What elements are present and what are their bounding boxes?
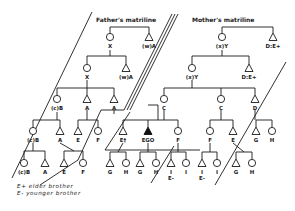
circle-icon xyxy=(182,159,189,166)
node-label: D xyxy=(253,105,258,111)
male-node: G xyxy=(252,127,260,143)
female-node: I xyxy=(213,159,220,174)
female-node: (x)Y xyxy=(216,33,228,48)
male-node: D:E+ xyxy=(242,64,257,80)
node-label: G xyxy=(234,169,239,175)
male-node: E† xyxy=(119,127,127,143)
triangle-icon xyxy=(106,159,114,167)
female-node: H xyxy=(268,127,275,142)
node-label: E xyxy=(76,137,80,143)
node-label: A xyxy=(85,105,90,111)
father-matriline-title: Father's matriline xyxy=(96,16,156,23)
circle-icon xyxy=(53,95,60,102)
triangle-icon xyxy=(232,159,240,167)
circle-icon xyxy=(218,33,225,40)
node-sublabel: E- xyxy=(199,175,205,181)
legend-younger-brother: E- younger brother xyxy=(17,190,81,197)
circle-icon xyxy=(94,127,101,134)
circle-icon xyxy=(79,159,86,166)
circle-icon xyxy=(213,159,220,166)
male-node: D xyxy=(251,95,259,111)
node-label: (c)B xyxy=(18,169,30,175)
triangle-icon xyxy=(119,127,127,135)
female-node: I xyxy=(182,159,189,174)
node-label: (w)A xyxy=(119,74,134,80)
male-node: G xyxy=(136,159,144,175)
kinship-diagram: Father's matriline Mother's matriline X(… xyxy=(0,0,295,211)
circle-icon xyxy=(206,127,213,134)
triangle-icon xyxy=(136,159,144,167)
node-label: A xyxy=(58,137,63,143)
circle-icon xyxy=(160,95,167,102)
node-label: D:E+ xyxy=(242,74,257,80)
female-node: (c)B xyxy=(27,127,39,142)
node-label: C xyxy=(219,105,223,111)
male-node: E xyxy=(229,127,237,143)
circle-icon xyxy=(106,33,113,40)
triangle-icon xyxy=(251,95,259,103)
triangle-icon xyxy=(83,95,91,103)
triangle-icon xyxy=(110,95,118,103)
circle-icon xyxy=(174,127,181,134)
node-label: C xyxy=(162,105,166,111)
ego-node: EGO xyxy=(142,127,155,143)
male-node: E xyxy=(60,159,68,175)
mother-matriline-title: Mother's matriline xyxy=(192,16,254,23)
female-node: C xyxy=(217,95,224,110)
node-label: E† xyxy=(120,137,127,143)
filled-triangle-icon xyxy=(144,127,152,135)
female-node: X xyxy=(83,64,90,79)
kinship-nodes: X(w)AX(w)A(c)BAA(c)BAEF(c)BAEF(x)YD:E+(x… xyxy=(18,33,281,181)
male-node: E xyxy=(74,127,82,143)
circle-icon xyxy=(29,127,36,134)
circle-icon xyxy=(20,159,27,166)
node-label: H xyxy=(270,137,275,143)
male-node: (w)A xyxy=(119,64,134,80)
node-sublabel: E- xyxy=(168,175,174,181)
male-node: A xyxy=(56,127,64,143)
node-label: H xyxy=(124,169,129,175)
female-node: C xyxy=(160,95,167,110)
male-node: G xyxy=(106,159,114,175)
circle-icon xyxy=(122,159,129,166)
node-label: (w)A xyxy=(142,43,157,49)
node-label: I xyxy=(170,169,172,175)
node-label: E xyxy=(231,137,235,143)
triangle-icon xyxy=(56,127,64,135)
node-label: I xyxy=(201,169,203,175)
node-label: X xyxy=(108,43,113,49)
male-node: A xyxy=(83,95,91,111)
node-label: F xyxy=(81,169,85,175)
female-node: F xyxy=(206,127,213,142)
male-node: G xyxy=(232,159,240,175)
node-label: (c)B xyxy=(27,137,39,143)
node-label: I xyxy=(216,169,218,175)
node-label: D:E+ xyxy=(266,43,281,49)
circle-icon xyxy=(188,64,195,71)
node-label: (x)Y xyxy=(186,74,198,80)
node-label: F xyxy=(176,137,180,143)
circle-icon xyxy=(152,159,159,166)
female-node: (c)B xyxy=(51,95,63,110)
node-label: F xyxy=(208,137,212,143)
female-node: (x)Y xyxy=(186,64,198,79)
triangle-icon xyxy=(145,33,153,41)
triangle-icon xyxy=(41,159,49,167)
node-label: A xyxy=(43,169,48,175)
node-label: H xyxy=(250,169,255,175)
node-label: EGO xyxy=(142,137,155,143)
female-node: F xyxy=(174,127,181,142)
circle-icon xyxy=(248,159,255,166)
triangle-icon xyxy=(198,159,206,167)
triangle-icon xyxy=(245,64,253,72)
circle-icon xyxy=(217,95,224,102)
node-label: X xyxy=(85,74,90,80)
triangle-icon xyxy=(167,159,175,167)
male-node: IE- xyxy=(167,159,175,181)
female-node: H xyxy=(152,159,159,174)
triangle-icon xyxy=(60,159,68,167)
circle-icon xyxy=(83,64,90,71)
male-node: D:E+ xyxy=(266,33,281,49)
triangle-icon xyxy=(122,64,130,72)
node-label: G xyxy=(254,137,259,143)
